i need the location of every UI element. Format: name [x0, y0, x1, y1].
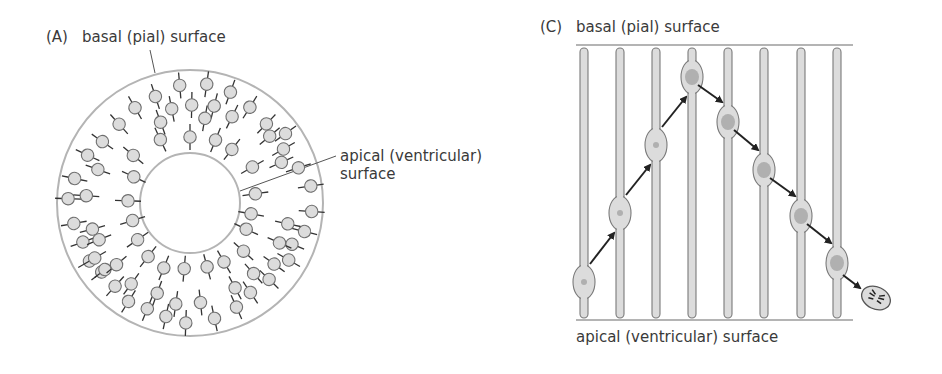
- mitotic-cell-icon: [858, 282, 894, 315]
- migration-arrow-icon: [662, 97, 686, 127]
- radial-glia-column: [609, 48, 631, 318]
- migration-arrow-icon: [590, 233, 614, 264]
- radial-glia-column: [645, 48, 667, 318]
- migration-arrow-icon: [807, 224, 831, 243]
- radial-glia-column: [573, 48, 595, 318]
- radial-glia-column: [753, 48, 775, 318]
- diagram-canvas: [0, 0, 942, 374]
- division-arrow-icon: [843, 275, 860, 288]
- radial-glia-column: [717, 48, 739, 318]
- radial-glia-column: [790, 48, 812, 318]
- neural-tube-cross-section: [55, 50, 336, 336]
- basal-leader-line: [150, 50, 155, 73]
- migration-arrow-icon: [626, 165, 650, 195]
- migration-arrow-icon: [770, 178, 795, 196]
- radial-glia-column: [681, 48, 703, 318]
- migration-arrow-icon: [698, 85, 722, 102]
- migration-arrow-icon: [734, 130, 758, 150]
- apical-surface-circle: [140, 153, 240, 253]
- interkinetic-nuclear-migration: [573, 45, 894, 320]
